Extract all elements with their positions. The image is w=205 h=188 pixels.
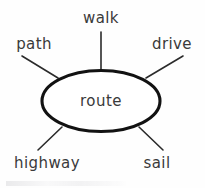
connector-line-highway (38, 127, 62, 150)
spoke-label-drive: drive (152, 37, 192, 52)
connector-line-sail (139, 127, 163, 150)
word-web-diagram: route walk path drive highway sail (0, 0, 205, 188)
connector-line-drive (146, 56, 183, 78)
spoke-label-walk: walk (83, 11, 119, 26)
spoke-label-highway: highway (14, 156, 80, 171)
connector-line-path (22, 56, 58, 78)
center-node-label: route (80, 94, 122, 109)
spoke-label-sail: sail (144, 156, 171, 171)
spoke-label-path: path (16, 37, 52, 52)
